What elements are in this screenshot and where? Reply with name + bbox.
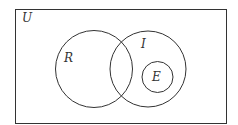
universe-rectangle (16, 10, 227, 124)
venn-diagram: U R I E (0, 0, 238, 125)
set-e-label: E (151, 70, 161, 84)
set-i-circle (110, 31, 186, 107)
universe-label: U (22, 11, 33, 25)
set-r-label: R (63, 51, 73, 65)
set-i-label: I (140, 37, 146, 51)
